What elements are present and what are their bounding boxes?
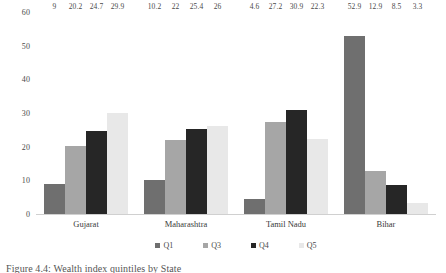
bar[interactable]: 22	[165, 140, 186, 214]
bar-slot: 12.9	[365, 12, 386, 214]
legend-item[interactable]: Q4	[251, 241, 269, 250]
legend-swatch-icon	[155, 243, 160, 248]
bar-value-label: 25.4	[190, 2, 204, 11]
bar[interactable]: 3.3	[407, 203, 428, 214]
y-axis-tick-label: 60	[22, 8, 30, 17]
legend-swatch-icon	[299, 243, 304, 248]
bar-value-label: 52.9	[348, 2, 362, 11]
bar[interactable]: 4.6	[244, 199, 265, 214]
legend-swatch-icon	[251, 243, 256, 248]
bar-value-label: 26	[214, 2, 222, 11]
bar-slot: 3.3	[407, 12, 428, 214]
bar-slot: 27.2	[265, 12, 286, 214]
bar-chart: 0102030405060 920.224.729.910.22225.4264…	[0, 0, 446, 273]
bar-value-label: 10.2	[148, 2, 162, 11]
bar-slot: 22	[165, 12, 186, 214]
x-axis-category-label: Gujarat	[36, 219, 136, 229]
bar[interactable]: 10.2	[144, 180, 165, 214]
legend-item[interactable]: Q3	[203, 241, 221, 250]
bar-slot: 24.7	[86, 12, 107, 214]
bar[interactable]: 30.9	[286, 110, 307, 214]
x-axis-line	[36, 214, 436, 215]
bar[interactable]: 20.2	[65, 146, 86, 214]
x-axis-category-labels: GujaratMaharashtraTamil NaduBihar	[36, 219, 436, 229]
legend-item[interactable]: Q5	[299, 241, 317, 250]
bar-value-label: 29.9	[111, 2, 125, 11]
bar[interactable]: 27.2	[265, 122, 286, 214]
bar-group: 52.912.98.53.3	[336, 12, 436, 214]
bar[interactable]: 26	[207, 126, 228, 214]
bar-slot: 4.6	[244, 12, 265, 214]
legend-label: Q4	[259, 241, 269, 250]
bar-slot: 8.5	[386, 12, 407, 214]
bar-slot: 26	[207, 12, 228, 214]
bar-slot: 52.9	[344, 12, 365, 214]
bar[interactable]: 8.5	[386, 185, 407, 214]
y-axis-tick-label: 30	[22, 109, 30, 118]
legend-label: Q3	[211, 241, 221, 250]
bar-group: 4.627.230.922.3	[236, 12, 336, 214]
bar-value-label: 3.3	[413, 2, 423, 11]
bar-slot: 25.4	[186, 12, 207, 214]
legend-label: Q5	[307, 241, 317, 250]
bar[interactable]: 9	[44, 184, 65, 214]
bar-value-label: 4.6	[250, 2, 260, 11]
bar-slot: 9	[44, 12, 65, 214]
bar-value-label: 20.2	[69, 2, 83, 11]
bar-slot: 29.9	[107, 12, 128, 214]
bar-value-label: 27.2	[269, 2, 283, 11]
figure-caption: Figure 4.4: Wealth index quintiles by St…	[6, 263, 436, 273]
bar-slot: 10.2	[144, 12, 165, 214]
bar-value-label: 22	[172, 2, 180, 11]
bar-value-label: 22.3	[311, 2, 325, 11]
bar-value-label: 30.9	[290, 2, 304, 11]
bar[interactable]: 22.3	[307, 139, 328, 214]
y-axis-tick-label: 20	[22, 142, 30, 151]
chart-legend: Q1Q3Q4Q5	[36, 241, 436, 250]
bar-slot: 20.2	[65, 12, 86, 214]
y-axis: 0102030405060	[0, 12, 30, 214]
bar-group: 10.22225.426	[136, 12, 236, 214]
bar-slot: 22.3	[307, 12, 328, 214]
y-axis-tick-label: 10	[22, 176, 30, 185]
bar-slot: 30.9	[286, 12, 307, 214]
bar[interactable]: 25.4	[186, 129, 207, 215]
bar[interactable]: 29.9	[107, 113, 128, 214]
bar-value-label: 9	[53, 2, 57, 11]
y-axis-tick-label: 40	[22, 75, 30, 84]
x-axis-category-label: Tamil Nadu	[236, 219, 336, 229]
y-axis-tick-label: 50	[22, 41, 30, 50]
x-axis-category-label: Maharashtra	[136, 219, 236, 229]
x-axis-category-label: Bihar	[336, 219, 436, 229]
bar-value-label: 24.7	[90, 2, 104, 11]
bar-value-label: 8.5	[392, 2, 402, 11]
bar-group: 920.224.729.9	[36, 12, 136, 214]
bar-value-label: 12.9	[369, 2, 383, 11]
legend-label: Q1	[163, 241, 173, 250]
y-axis-tick-label: 0	[26, 210, 30, 219]
plot-area: 920.224.729.910.22225.4264.627.230.922.3…	[36, 12, 436, 214]
bar[interactable]: 12.9	[365, 171, 386, 214]
bar[interactable]: 52.9	[344, 36, 365, 214]
bar[interactable]: 24.7	[86, 131, 107, 214]
legend-item[interactable]: Q1	[155, 241, 173, 250]
legend-swatch-icon	[203, 243, 208, 248]
